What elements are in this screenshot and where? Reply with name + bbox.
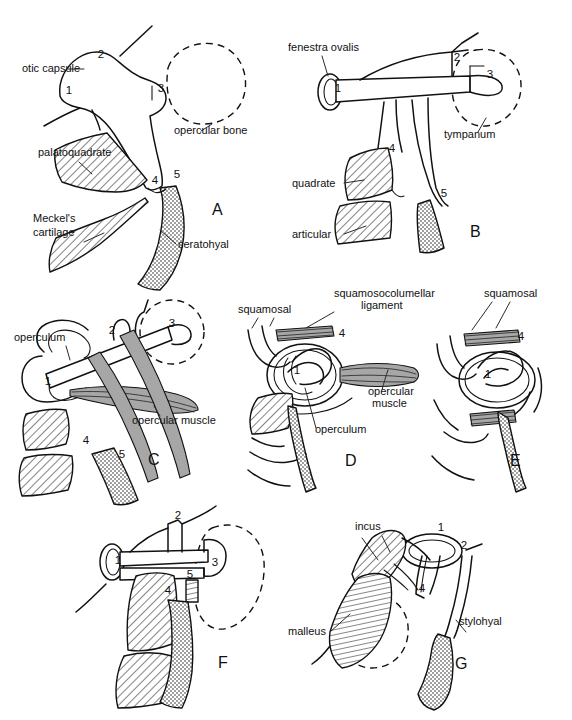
panel-E-labels: squamosal xyxy=(484,287,537,299)
quadrate-C xyxy=(23,409,69,450)
panel-letter-G: G xyxy=(455,655,468,672)
panel-C-number: 1 xyxy=(45,375,51,387)
panel-D-number: 1 xyxy=(294,364,300,376)
panel-G-number: 2 xyxy=(461,539,467,551)
label-malleus: malleus xyxy=(288,625,326,637)
panel-A-number: 2 xyxy=(98,48,104,60)
panel-letter-F: F xyxy=(218,654,228,671)
panel-B-number: 2 xyxy=(454,51,460,63)
label-opercular-muscle-D-l1: opercular xyxy=(368,385,414,397)
panel-letter-E: E xyxy=(510,452,521,469)
panel-C-number: 3 xyxy=(169,317,175,329)
panel-F-number: 3 xyxy=(212,556,218,568)
stylohyal-connector-F xyxy=(186,580,198,602)
label-meckels-line2: cartilage xyxy=(33,226,75,238)
label-incus: incus xyxy=(355,520,381,532)
label-meckels-line1: Meckel's xyxy=(33,212,76,224)
label-quadrate: quadrate xyxy=(292,177,335,189)
panel-B-number: 4 xyxy=(389,142,396,154)
label-palatoquadrate: palatoquadrate xyxy=(38,146,111,158)
panel-A-number: 4 xyxy=(152,174,159,186)
articular-C xyxy=(19,455,73,496)
quadrate-D xyxy=(250,393,293,434)
articular-shape xyxy=(335,201,391,244)
panel-F-number: 5 xyxy=(187,568,193,580)
label-operculum-D: operculum xyxy=(315,423,366,435)
label-opercular-bone: opercular bone xyxy=(174,124,247,136)
label-opercular-muscle-C: opercular muscle xyxy=(132,414,216,426)
panel-letter-A: A xyxy=(212,201,223,218)
panel-F-number: 4 xyxy=(165,584,172,596)
panel-E-number: 1 xyxy=(485,368,491,380)
panel-A-number: 3 xyxy=(158,82,164,94)
panel-F-number: 2 xyxy=(175,509,181,521)
figure-root: 1 2 3 4 5 otic capsule opercular bone pa… xyxy=(0,0,572,720)
label-squamosocolumellar: squamosocolumellar xyxy=(334,287,435,299)
panel-A-number: 5 xyxy=(174,168,180,180)
label-opercular-muscle-D-l2: muscle xyxy=(372,397,407,409)
label-ceratohyal: ceratohyal xyxy=(178,238,229,250)
panel-A-number: 1 xyxy=(66,84,72,96)
panel-B-number: 3 xyxy=(487,68,493,80)
label-operculum-C: operculum xyxy=(14,331,65,343)
label-articular: articular xyxy=(292,228,331,240)
panel-B-number: 5 xyxy=(441,187,447,199)
anatomy-figure: 1 2 3 4 5 otic capsule opercular bone pa… xyxy=(0,0,572,720)
label-squamosal-E: squamosal xyxy=(484,287,537,299)
panel-D-number: 4 xyxy=(339,327,346,339)
panel-F-number: 1 xyxy=(115,554,121,566)
label-stylohyal: stylohyal xyxy=(459,615,502,627)
panel-G-number: 4 xyxy=(419,582,426,594)
label-tympanum: tympanum xyxy=(444,128,495,140)
panel-letter-D: D xyxy=(345,452,357,469)
panel-G-number: 1 xyxy=(438,521,444,533)
label-squamosal-D: squamosal xyxy=(238,303,291,315)
panel-B-number: 1 xyxy=(335,82,341,94)
panel-C-number: 5 xyxy=(119,448,125,460)
label-fenestra-ovalis: fenestra ovalis xyxy=(288,41,359,53)
panel-E-number: 4 xyxy=(518,330,525,342)
label-ligament: ligament xyxy=(361,299,403,311)
panel-letter-C: C xyxy=(148,451,160,468)
label-otic-capsule: otic capsule xyxy=(22,62,80,74)
panel-C-number: 4 xyxy=(83,434,90,446)
panel-C-number: 2 xyxy=(109,324,115,336)
panel-letter-B: B xyxy=(470,223,481,240)
